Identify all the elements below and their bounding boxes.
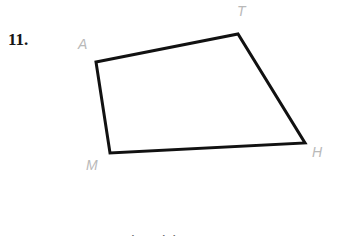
quadrilateral-athm-outline	[96, 34, 305, 153]
vertex-label-a: A	[78, 37, 87, 51]
worksheet-canvas: 11. A T H M answer should be close to 36…	[0, 0, 337, 236]
annotation-note-line-1: answer should	[58, 230, 288, 236]
vertex-label-h: H	[312, 145, 322, 159]
vertex-label-m: M	[86, 158, 98, 172]
vertex-label-t: T	[237, 4, 246, 18]
annotation-note: answer should be close to 360°	[58, 184, 288, 236]
problem-number-label: 11.	[8, 30, 28, 50]
